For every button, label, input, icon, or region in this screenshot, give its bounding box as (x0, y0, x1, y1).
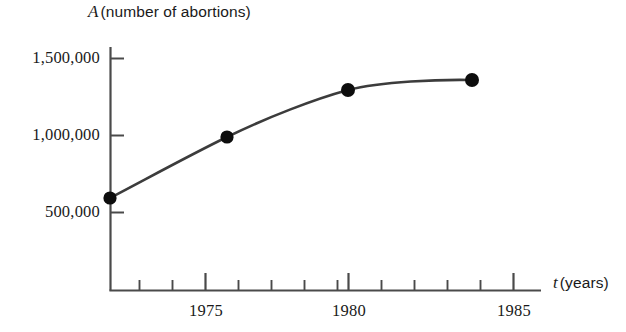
x-axis-major-ticks (206, 273, 514, 290)
x-axis-title: t(years) (553, 273, 609, 293)
x-tick-label-1975: 1975 (189, 301, 223, 321)
y-tick-label-1000000: 1,000,000 (0, 125, 100, 145)
data-point-markers (103, 73, 479, 205)
y-axis-unit: (number of abortions) (100, 3, 250, 20)
y-tick-label-500000: 500,000 (0, 202, 100, 222)
y-axis-title: A(number of abortions) (88, 2, 251, 22)
x-axis-symbol: t (553, 273, 560, 292)
data-point-1976 (220, 130, 233, 143)
data-point-1972 (103, 191, 116, 204)
x-tick-label-1980: 1980 (332, 301, 366, 321)
data-point-1980 (341, 83, 355, 97)
x-axis-minor-ticks (140, 280, 481, 290)
y-axis-ticks (110, 59, 124, 213)
chart-figure: A(number of abortions) t(years) 1,500,00… (0, 0, 626, 332)
x-axis-unit: (years) (560, 274, 609, 291)
data-point-1984 (465, 73, 479, 87)
x-tick-label-1985: 1985 (497, 301, 531, 321)
y-axis-symbol: A (88, 2, 100, 21)
data-curve (110, 80, 472, 198)
y-tick-label-1500000: 1,500,000 (0, 48, 100, 68)
